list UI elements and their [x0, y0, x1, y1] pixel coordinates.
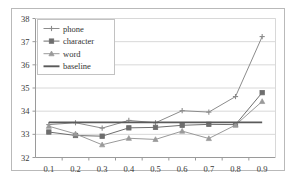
y-tick-label: 34: [21, 106, 30, 116]
y-axis-tick-labels: 32333435363738: [21, 14, 30, 163]
data-point-cross: [180, 108, 185, 113]
data-point-triangle: [180, 128, 185, 133]
data-point-square: [180, 123, 184, 127]
x-tick-label: 0.6: [177, 164, 188, 174]
data-point-cross: [100, 125, 105, 130]
x-tick-label: 0.8: [230, 164, 241, 174]
data-point-cross: [233, 94, 238, 99]
data-point-square: [153, 125, 157, 129]
y-tick-label: 35: [21, 83, 30, 93]
data-point-square: [260, 90, 264, 94]
data-point-cross: [206, 109, 211, 114]
legend-label: word: [63, 49, 81, 59]
x-tick-label: 0.1: [44, 164, 55, 174]
chart-figure: 32333435363738 0.10.20.30.40.50.60.70.80…: [0, 0, 296, 188]
chart-legend: phonecharacterwordbaseline: [38, 20, 115, 75]
legend-label: baseline: [63, 61, 91, 71]
legend-label: phone: [63, 24, 84, 34]
y-tick-label: 36: [21, 60, 30, 70]
x-tick-label: 0.5: [150, 164, 161, 174]
y-tick-label: 38: [21, 14, 30, 24]
x-tick-label: 0.9: [257, 164, 268, 174]
legend-label: character: [63, 36, 94, 46]
x-tick-label: 0.7: [204, 164, 215, 174]
series-character: [47, 90, 265, 138]
x-axis-tick-labels: 0.10.20.30.40.50.60.70.80.9: [44, 164, 268, 174]
data-point-square: [127, 126, 131, 130]
data-point-square: [100, 134, 104, 138]
y-tick-label: 33: [21, 129, 30, 139]
x-tick-label: 0.3: [97, 164, 108, 174]
y-tick-label: 37: [21, 37, 30, 47]
line-chart: 32333435363738 0.10.20.30.40.50.60.70.80…: [0, 0, 296, 188]
data-point-square: [47, 130, 51, 134]
data-point-triangle: [260, 99, 265, 104]
x-tick-label: 0.4: [124, 164, 135, 174]
x-tick-label: 0.2: [70, 164, 81, 174]
y-tick-label: 32: [21, 153, 30, 163]
data-point-square: [49, 39, 53, 43]
data-point-cross: [260, 34, 265, 39]
